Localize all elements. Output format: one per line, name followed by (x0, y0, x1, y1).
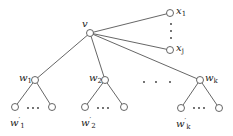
node-xj (167, 47, 174, 54)
label-wk-prime: w′k (176, 118, 190, 131)
label-xj: xj (176, 43, 184, 55)
node-x1 (167, 10, 174, 17)
label-w1: w1 (19, 73, 32, 85)
tree-edges (0, 0, 233, 136)
node-v (87, 30, 94, 37)
label-x1: x1 (176, 6, 186, 18)
label-w1-prime: w′1 (10, 117, 25, 130)
label-v: v (82, 19, 88, 29)
node-w2 (102, 77, 109, 84)
label-wk: wk (205, 73, 218, 85)
label-w2-prime: w′2 (81, 117, 96, 130)
node-wk (197, 77, 204, 84)
tree-diagram: v x1 xj w1 w2 wk w′1 w′2 w′k (0, 0, 233, 136)
label-w2: w2 (89, 73, 102, 85)
node-w1 (32, 77, 39, 84)
